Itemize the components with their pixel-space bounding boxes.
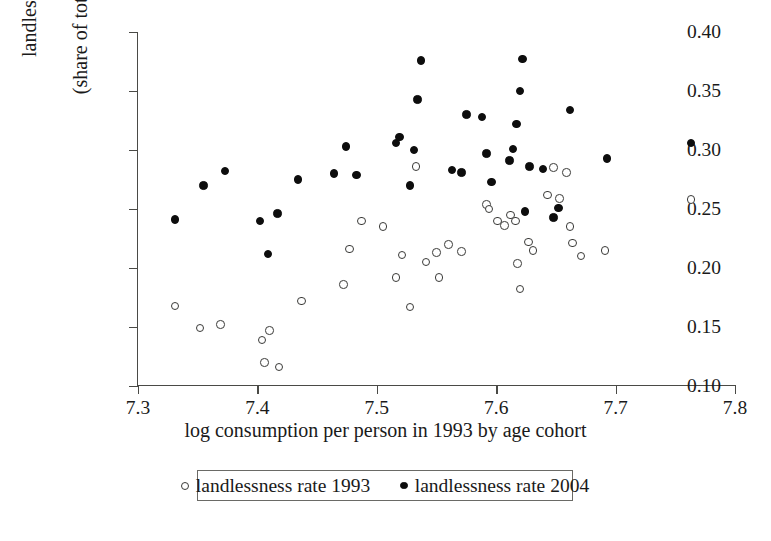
data-point-2004 [352, 171, 361, 180]
legend-entry-1993: landlessness rate 1993 [181, 476, 370, 496]
data-point-1993 [457, 247, 466, 256]
x-tick-mark [735, 385, 736, 394]
data-point-2004 [221, 167, 230, 176]
data-point-1993 [562, 168, 571, 177]
open-circle-icon [181, 482, 189, 490]
data-point-2004 [482, 149, 491, 158]
y-axis-title-line-2: (share of total population) [68, 0, 94, 120]
data-point-2004 [294, 175, 303, 184]
legend-entry-2004: landlessness rate 2004 [400, 476, 589, 496]
data-point-1993 [357, 217, 366, 226]
chart-legend: landlessness rate 1993 landlessness rate… [197, 470, 573, 501]
data-point-1993 [339, 280, 348, 289]
x-tick-label: 7.3 [126, 398, 150, 418]
x-tick-mark [377, 385, 378, 394]
data-point-1993 [577, 252, 586, 261]
data-point-2004 [487, 178, 496, 187]
data-point-1993 [171, 302, 180, 311]
data-point-1993 [398, 251, 407, 260]
data-point-2004 [199, 181, 208, 190]
data-point-2004 [410, 146, 419, 155]
legend-label-1993: landlessness rate 1993 [196, 476, 370, 496]
data-point-1993 [392, 273, 401, 282]
data-point-1993 [297, 297, 306, 306]
data-point-1993 [379, 222, 388, 231]
data-point-1993 [412, 162, 421, 171]
data-point-2004 [505, 156, 514, 165]
y-tick-mark [129, 91, 138, 92]
data-point-1993 [260, 358, 269, 367]
scatter-chart-figure: 0.100.150.200.250.300.350.40 7.37.47.57.… [0, 0, 771, 541]
data-point-1993 [549, 163, 558, 172]
x-tick-mark [616, 385, 617, 394]
y-tick-label: 0.35 [687, 81, 721, 101]
data-point-2004 [273, 209, 282, 218]
x-tick-label: 7.4 [245, 398, 269, 418]
data-point-2004 [462, 110, 471, 119]
data-point-1993 [687, 195, 696, 204]
data-point-1993 [500, 221, 509, 230]
y-tick-mark [129, 386, 138, 387]
y-tick-label: 0.10 [687, 376, 721, 396]
x-tick-mark [496, 385, 497, 394]
data-point-1993 [406, 303, 415, 312]
data-point-2004 [406, 181, 415, 190]
data-point-2004 [549, 213, 558, 222]
x-tick-label: 7.5 [365, 398, 389, 418]
data-point-2004 [525, 162, 534, 171]
x-tick-label: 7.7 [603, 398, 627, 418]
y-axis-title: landlessness rate (share of total popula… [0, 0, 119, 120]
data-point-2004 [457, 168, 466, 177]
data-point-1993 [555, 194, 564, 203]
y-tick-mark [129, 150, 138, 151]
data-point-2004 [512, 120, 521, 129]
data-point-2004 [342, 142, 351, 151]
data-point-2004 [603, 154, 612, 163]
data-point-1993 [432, 248, 441, 257]
data-point-2004 [509, 145, 518, 154]
x-tick-label: 7.6 [484, 398, 508, 418]
data-point-2004 [330, 169, 339, 178]
y-axis-title-line-1: landlessness rate [17, 0, 43, 120]
plot-area: 0.100.150.200.250.300.350.40 7.37.47.57.… [138, 32, 735, 386]
data-point-1993 [524, 238, 533, 247]
y-tick-mark [129, 268, 138, 269]
data-point-1993 [529, 246, 538, 255]
data-point-2004 [521, 207, 530, 216]
y-tick-label: 0.20 [687, 258, 721, 278]
y-tick-label: 0.15 [687, 317, 721, 337]
y-tick-mark [129, 327, 138, 328]
data-point-1993 [275, 363, 284, 372]
data-point-2004 [395, 133, 404, 142]
legend-label-2004: landlessness rate 2004 [415, 476, 589, 496]
data-point-2004 [171, 215, 180, 224]
data-point-1993 [422, 258, 431, 267]
data-point-1993 [345, 245, 354, 254]
data-point-2004 [554, 204, 563, 213]
y-tick-mark [129, 32, 138, 33]
data-point-2004 [478, 113, 487, 122]
data-point-1993 [485, 205, 494, 214]
y-tick-label: 0.40 [687, 22, 721, 42]
data-point-2004 [417, 56, 426, 65]
filled-circle-icon [400, 482, 408, 490]
y-tick-mark [129, 209, 138, 210]
data-point-1993 [258, 336, 267, 345]
data-point-1993 [265, 326, 274, 335]
x-tick-label: 7.8 [723, 398, 747, 418]
data-point-2004 [539, 165, 548, 174]
x-tick-mark [257, 385, 258, 394]
x-axis-title: log consumption per person in 1993 by ag… [0, 418, 771, 442]
data-point-1993 [444, 240, 453, 249]
data-point-1993 [216, 320, 225, 329]
data-point-2004 [566, 106, 575, 115]
data-point-1993 [196, 324, 205, 333]
x-tick-mark [138, 385, 139, 394]
data-point-2004 [264, 250, 273, 259]
data-point-1993 [435, 273, 444, 282]
x-axis-line [138, 385, 735, 386]
data-point-1993 [511, 217, 520, 226]
data-point-2004 [448, 166, 457, 175]
data-point-2004 [256, 217, 265, 226]
data-point-1993 [601, 246, 610, 255]
